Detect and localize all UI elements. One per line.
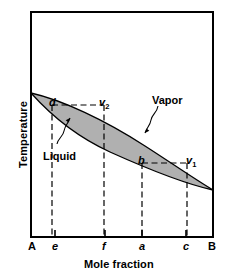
x-tick-label-f: f [102,241,106,252]
y-axis-title: Temperature [18,101,29,168]
x-tick-label-a: a [139,241,145,252]
x-tick-label-c: c [183,241,189,252]
region-label-vapor: Vapor [152,95,183,106]
plot-area-background [31,12,213,237]
phase-diagram-figure: Temperature Mole fraction A e f a c B Va… [0,0,230,279]
point-label-v1: v1 [186,155,196,169]
point-label-d-text: d [49,96,56,108]
plot-canvas [0,0,230,279]
point-label-v1-sub: 1 [192,160,196,169]
x-tick-label-A: A [28,241,36,252]
x-axis-title: Mole fraction [84,259,154,270]
x-tick-label-B: B [208,241,216,252]
point-label-v2-sub: 2 [105,102,109,111]
x-tick-label-e: e [52,241,58,252]
point-label-v2: v2 [99,97,109,111]
point-label-b: b [138,155,145,166]
point-label-d: d [49,97,56,108]
region-label-liquid: Liquid [43,151,76,162]
point-label-b-text: b [138,154,145,166]
